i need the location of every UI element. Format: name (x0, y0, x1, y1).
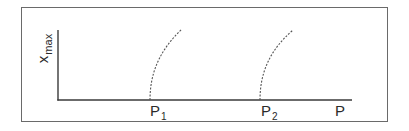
y-axis-label-subscript: max (42, 34, 54, 55)
y-axis-label-base: x (34, 56, 51, 64)
y-axis-label: xmax (34, 34, 51, 63)
curve-p1 (150, 29, 182, 100)
x-axis-label: P (335, 103, 345, 118)
marker-label-p1: P1 (150, 103, 167, 120)
marker-label-base: P (261, 102, 271, 119)
plot-area (0, 0, 409, 131)
marker-label-subscript: 2 (272, 111, 278, 122)
marker-label-p2: P2 (261, 103, 278, 120)
marker-label-subscript: 1 (161, 111, 167, 122)
marker-label-base: P (150, 102, 160, 119)
curve-p2 (260, 30, 293, 100)
